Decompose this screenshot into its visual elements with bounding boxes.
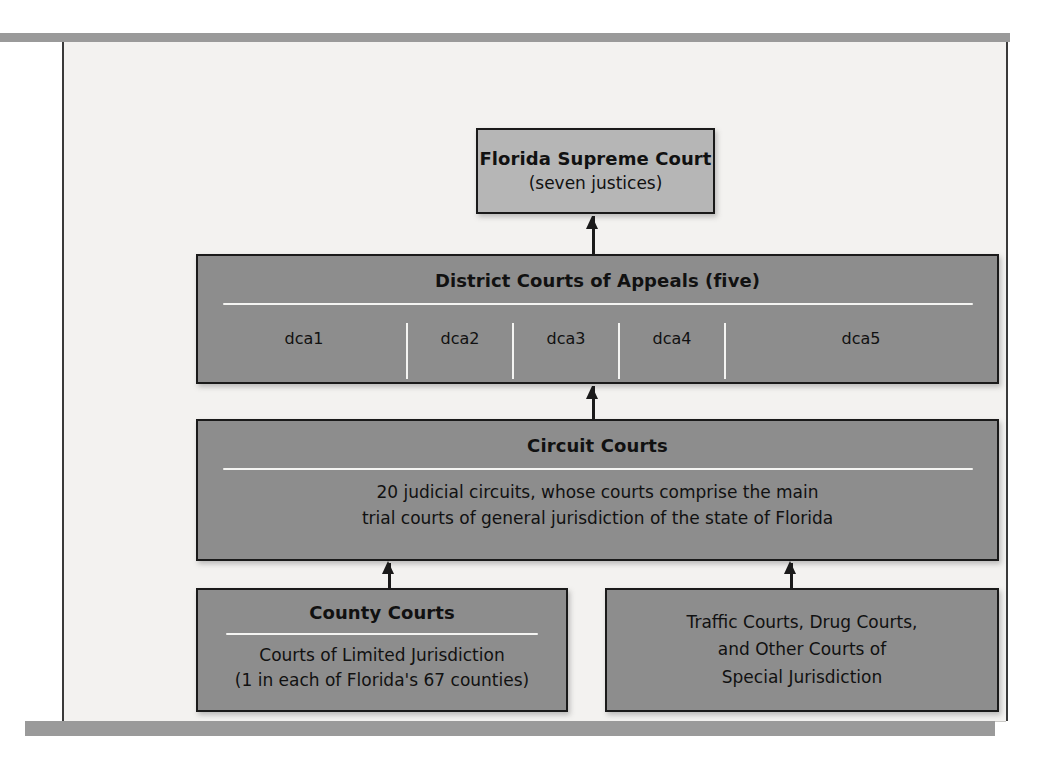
dca-division-4: dca4 <box>620 313 724 348</box>
arrowhead-special-to-circuit-icon <box>784 561 796 574</box>
arrowhead-circuit-to-dca-icon <box>586 386 598 399</box>
circuit-description-line-2: trial courts of general jurisdiction of … <box>198 506 997 532</box>
county-description-line-2: (1 in each of Florida's 67 counties) <box>198 668 566 693</box>
node-county-courts: County Courts Courts of Limited Jurisdic… <box>196 588 568 712</box>
circuit-courts-description: 20 judicial circuits, whose courts compr… <box>198 480 997 531</box>
dca-division-5: dca5 <box>726 313 996 348</box>
county-courts-description: Courts of Limited Jurisdiction (1 in eac… <box>198 643 566 692</box>
circuit-courts-title: Circuit Courts <box>198 435 997 456</box>
dca-division-row: dca1 dca2 dca3 dca4 dca5 <box>198 313 997 387</box>
diagram-panel: Florida Supreme Court (seven justices) D… <box>62 42 1008 721</box>
arrowhead-dca-to-supreme-icon <box>586 216 598 229</box>
node-district-courts-of-appeals: District Courts of Appeals (five) dca1 d… <box>196 254 999 384</box>
special-description-line-3: Special Jurisdiction <box>687 664 918 691</box>
node-circuit-courts: Circuit Courts 20 judicial circuits, who… <box>196 419 999 561</box>
county-courts-title: County Courts <box>198 602 566 623</box>
county-description-line-1: Courts of Limited Jurisdiction <box>198 643 566 668</box>
node-special-jurisdiction-courts: Traffic Courts, Drug Courts, and Other C… <box>605 588 999 712</box>
special-description-line-1: Traffic Courts, Drug Courts, <box>687 609 918 636</box>
circuit-description-line-1: 20 judicial circuits, whose courts compr… <box>198 480 997 506</box>
county-divider-rule <box>226 633 538 635</box>
supreme-court-subtitle: (seven justices) <box>529 172 663 195</box>
node-florida-supreme-court: Florida Supreme Court (seven justices) <box>476 128 715 214</box>
special-description-line-2: and Other Courts of <box>687 636 918 663</box>
dca-divider-rule <box>223 303 973 305</box>
dca-division-2: dca2 <box>408 313 512 348</box>
circuit-divider-rule <box>223 468 973 470</box>
supreme-court-title: Florida Supreme Court <box>479 147 711 171</box>
page-top-rule <box>0 33 1010 42</box>
arrowhead-county-to-circuit-icon <box>382 561 394 574</box>
dca-division-1: dca1 <box>200 313 408 348</box>
dca-title: District Courts of Appeals (five) <box>198 270 997 291</box>
dca-division-3: dca3 <box>514 313 618 348</box>
page-bottom-rule <box>25 721 995 736</box>
special-courts-description: Traffic Courts, Drug Courts, and Other C… <box>687 609 918 691</box>
